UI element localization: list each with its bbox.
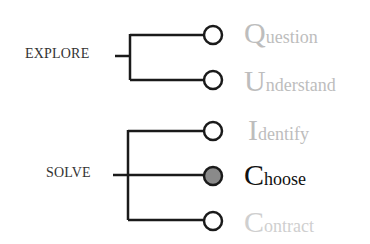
node-choose[interactable] [204,167,222,185]
step-initial: U [244,64,266,97]
explore-bracket [115,34,204,80]
step-rest: uestion [266,27,318,47]
step-rest: dentify [258,124,309,144]
step-initial: C [244,158,264,191]
group-label-explore: EXPLORE [25,46,89,62]
node-contract[interactable] [204,212,222,230]
node-question[interactable] [204,26,222,44]
step-rest: nderstand [266,75,336,95]
node-understand[interactable] [204,71,222,89]
step-identify: Identify [248,115,309,145]
step-question: Question [244,18,318,48]
step-rest: ontract [264,216,314,236]
step-initial: Q [244,16,266,49]
step-understand: Understand [244,66,336,96]
step-contract: Contract [244,207,314,237]
group-label-solve: SOLVE [46,165,91,181]
node-identify[interactable] [204,122,222,140]
step-initial: I [248,113,258,146]
step-initial: C [244,205,264,238]
step-choose: Choose [244,160,306,190]
solve-bracket [113,130,204,220]
step-rest: hoose [264,169,306,189]
